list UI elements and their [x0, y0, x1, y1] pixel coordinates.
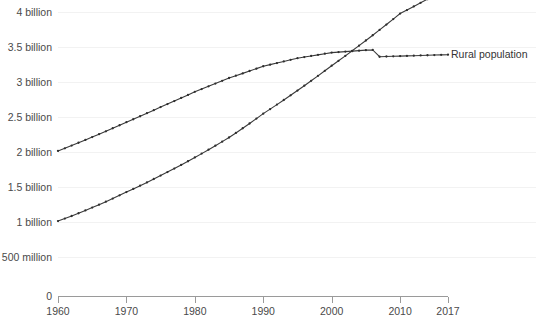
data-point-marker — [331, 65, 333, 67]
data-point-marker — [235, 132, 237, 134]
data-point-marker — [419, 2, 421, 4]
y-axis-tick-labels: 500 million1 billion1.5 billion2 billion… — [2, 6, 52, 263]
y-axis-zero-label: 0 — [46, 290, 52, 302]
data-point-marker — [235, 75, 237, 77]
data-point-marker — [283, 60, 285, 62]
data-point-marker — [194, 91, 196, 93]
data-point-marker — [57, 220, 59, 222]
data-point-marker — [180, 97, 182, 99]
data-point-marker — [283, 99, 285, 101]
data-point-marker — [242, 127, 244, 129]
data-point-marker — [378, 29, 380, 31]
data-point-marker — [201, 88, 203, 90]
data-point-marker — [146, 112, 148, 114]
series-label-rural: Rural population — [451, 48, 528, 60]
data-point-marker — [242, 72, 244, 74]
data-point-marker — [426, 54, 428, 56]
data-point-marker — [91, 206, 93, 208]
data-point-marker — [303, 56, 305, 58]
data-point-marker — [228, 136, 230, 138]
data-point-marker — [310, 80, 312, 82]
data-point-marker — [324, 70, 326, 72]
data-point-marker — [331, 51, 333, 53]
y-axis-tick-label: 3 billion — [16, 76, 52, 88]
data-point-marker — [139, 115, 141, 117]
data-point-marker — [296, 89, 298, 91]
data-point-marker — [214, 82, 216, 84]
data-point-marker — [248, 70, 250, 72]
data-point-marker — [173, 167, 175, 169]
data-point-marker — [413, 5, 415, 7]
data-point-marker — [392, 18, 394, 20]
data-point-marker — [372, 49, 374, 51]
data-point-marker — [221, 140, 223, 142]
data-point-marker — [201, 152, 203, 154]
data-point-marker — [84, 139, 86, 141]
data-point-marker — [303, 85, 305, 87]
data-point-marker — [118, 194, 120, 196]
data-point-marker — [71, 144, 73, 146]
data-point-marker — [71, 215, 73, 217]
data-point-marker — [125, 121, 127, 123]
data-point-marker — [392, 55, 394, 57]
data-point-marker — [289, 59, 291, 61]
data-point-marker — [180, 164, 182, 166]
data-point-marker — [433, 54, 435, 56]
data-point-marker — [406, 9, 408, 11]
data-point-marker — [269, 63, 271, 65]
data-point-marker — [132, 118, 134, 120]
data-point-marker — [221, 80, 223, 82]
data-point-marker — [207, 85, 209, 87]
data-point-marker — [358, 49, 360, 51]
data-point-marker — [344, 55, 346, 57]
data-point-marker — [365, 49, 367, 51]
data-point-marker — [262, 65, 264, 67]
data-point-marker — [146, 181, 148, 183]
series-layer — [57, 0, 449, 222]
x-axis-tick-label: 2000 — [320, 305, 344, 317]
data-point-marker — [276, 62, 278, 64]
data-point-marker — [57, 150, 59, 152]
data-point-marker — [310, 55, 312, 57]
data-point-marker — [385, 23, 387, 25]
data-point-marker — [351, 50, 353, 52]
data-point-marker — [399, 12, 401, 14]
y-axis-tick-label: 1.5 billion — [8, 181, 53, 193]
data-point-marker — [112, 127, 114, 129]
data-point-marker — [440, 54, 442, 56]
data-point-marker — [132, 188, 134, 190]
data-point-marker — [166, 103, 168, 105]
data-point-marker — [77, 212, 79, 214]
data-point-marker — [173, 100, 175, 102]
x-axis-tick-label: 1990 — [252, 305, 276, 317]
data-point-marker — [365, 39, 367, 41]
y-axis-tick-label: 1 billion — [16, 216, 52, 228]
data-point-marker — [255, 117, 257, 119]
data-point-marker — [413, 55, 415, 57]
data-point-marker — [372, 34, 374, 36]
data-point-marker — [84, 209, 86, 211]
data-point-marker — [344, 50, 346, 52]
data-point-marker — [337, 60, 339, 62]
population-line-chart: 500 million1 billion1.5 billion2 billion… — [0, 0, 536, 332]
data-point-marker — [125, 191, 127, 193]
data-point-marker — [159, 106, 161, 108]
data-point-marker — [317, 54, 319, 56]
x-axis-tick-label: 1980 — [183, 305, 207, 317]
data-point-marker — [98, 133, 100, 135]
x-axis-tick-labels: 1960197019801990200020102017 — [46, 305, 460, 317]
x-axis-tick-label: 2017 — [436, 305, 460, 317]
data-point-marker — [406, 55, 408, 57]
x-axis-tick-label: 1960 — [46, 305, 70, 317]
data-point-marker — [385, 55, 387, 57]
data-point-marker — [214, 145, 216, 147]
data-point-marker — [269, 108, 271, 110]
y-axis-tick-label: 4 billion — [16, 6, 52, 18]
y-axis-tick-label: 500 million — [2, 251, 52, 263]
data-point-marker — [98, 203, 100, 205]
data-point-marker — [207, 149, 209, 151]
data-point-marker — [358, 45, 360, 47]
data-point-marker — [112, 197, 114, 199]
data-point-marker — [64, 217, 66, 219]
data-point-marker — [166, 171, 168, 173]
